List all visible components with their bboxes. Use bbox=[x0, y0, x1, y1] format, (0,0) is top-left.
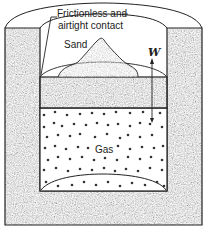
sand-label: Sand bbox=[64, 39, 87, 50]
contact-label-line2: airtight contact bbox=[58, 20, 123, 31]
weight-label: W bbox=[148, 46, 162, 59]
piston bbox=[40, 77, 167, 108]
piston-cylinder-diagram: Frictionless and airtight contact Sand W… bbox=[0, 0, 206, 227]
gas-label: Gas bbox=[95, 144, 113, 155]
contact-label-line1: Frictionless and bbox=[57, 8, 127, 19]
contact-leader-line bbox=[41, 17, 57, 75]
